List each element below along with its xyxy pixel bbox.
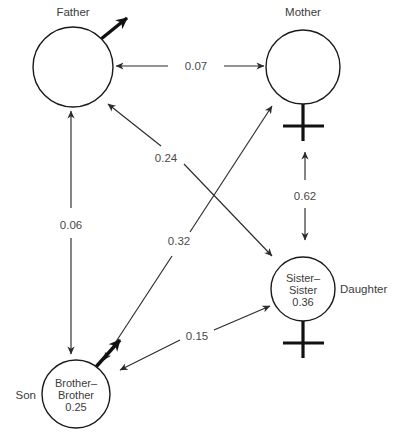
node-inner-line-daughter-2: Sister bbox=[289, 284, 317, 296]
node-mother[interactable]: Mother bbox=[266, 6, 340, 141]
edge-father-daughter: 0.24 bbox=[108, 104, 272, 256]
male-symbol-icon-father bbox=[101, 18, 127, 39]
node-label-mother: Mother bbox=[285, 6, 321, 18]
node-inner-line-daughter-3: 0.36 bbox=[292, 296, 313, 308]
edge-label-mother-daughter: 0.62 bbox=[294, 190, 316, 202]
edge-label-father-daughter: 0.24 bbox=[155, 152, 178, 164]
node-inner-line-daughter-1: Sister– bbox=[286, 272, 321, 284]
node-circle-father[interactable] bbox=[33, 27, 113, 107]
edge-father-mother: 0.07 bbox=[116, 60, 264, 72]
edge-son-daughter-right-segment bbox=[214, 306, 270, 330]
path-diagram-canvas: 0.07 0.06 0.62 0.24 0.32 bbox=[0, 0, 403, 443]
node-inner-line-son-1: Brother– bbox=[55, 377, 98, 389]
diagram-svg: 0.07 0.06 0.62 0.24 0.32 bbox=[0, 0, 403, 443]
node-label-son: Son bbox=[16, 389, 36, 401]
edge-son-daughter-left-segment bbox=[120, 340, 180, 370]
edge-label-father-son: 0.06 bbox=[60, 219, 82, 231]
node-label-daughter: Daughter bbox=[340, 283, 387, 295]
edge-label-mother-son: 0.32 bbox=[168, 235, 190, 247]
node-son[interactable]: Brother– Brother 0.25 Son bbox=[16, 340, 120, 428]
node-daughter[interactable]: Sister– Sister 0.36 Daughter bbox=[271, 257, 387, 358]
node-circle-mother[interactable] bbox=[266, 30, 340, 104]
node-father[interactable]: Father bbox=[33, 6, 127, 107]
edge-father-son: 0.06 bbox=[60, 111, 82, 354]
edge-father-daughter-lower-segment bbox=[184, 164, 272, 256]
male-symbol-icon-son bbox=[95, 340, 120, 368]
edge-mother-daughter: 0.62 bbox=[294, 152, 316, 240]
node-inner-line-son-3: 0.25 bbox=[65, 401, 86, 413]
edge-label-father-mother: 0.07 bbox=[185, 60, 207, 72]
node-inner-line-son-2: Brother bbox=[58, 389, 94, 401]
edge-mother-son: 0.32 bbox=[104, 106, 272, 360]
node-label-father: Father bbox=[56, 6, 89, 18]
edge-son-daughter: 0.15 bbox=[120, 306, 270, 370]
edge-label-son-daughter: 0.15 bbox=[186, 330, 208, 342]
edge-father-daughter-upper-segment bbox=[108, 104, 161, 146]
